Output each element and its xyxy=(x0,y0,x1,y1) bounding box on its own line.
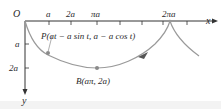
y-tick-a: a xyxy=(15,39,20,49)
y-tick-2a: 2a xyxy=(9,63,19,73)
y-axis-label: y xyxy=(21,95,27,106)
x-tick-a: a xyxy=(46,9,51,19)
cycloid-curve xyxy=(25,21,199,68)
cycloid-diagram: O x y a 2a πa 2πa a 2a P(at − a sin t, a… xyxy=(0,0,221,109)
x-axis xyxy=(25,19,218,26)
x-tick-pi-a: πa xyxy=(91,9,101,19)
x-tick-2pi-a: 2πa xyxy=(162,9,176,19)
x-tick-2a: 2a xyxy=(66,9,76,19)
point-p-label: P(at − a sin t, a − a cos t) xyxy=(40,31,135,41)
point-b xyxy=(95,66,99,70)
origin-label: O xyxy=(13,8,20,19)
x-axis-label: x xyxy=(205,15,211,26)
point-b-label: B(aπ, 2a) xyxy=(76,76,110,86)
y-axis xyxy=(23,21,30,95)
x-axis-arrow-icon xyxy=(212,19,218,24)
